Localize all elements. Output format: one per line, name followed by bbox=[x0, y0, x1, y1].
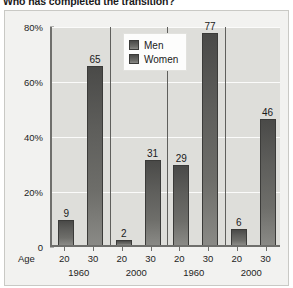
x-axis-age-label: 20 bbox=[52, 253, 76, 264]
x-axis-tick-mark bbox=[237, 247, 238, 251]
gridline bbox=[52, 27, 280, 28]
x-axis-tick-mark bbox=[179, 247, 180, 251]
bar-value-label: 9 bbox=[51, 208, 81, 219]
group-separator bbox=[225, 27, 226, 245]
x-axis-year-label: 1960 bbox=[169, 267, 219, 278]
bar bbox=[87, 66, 103, 245]
x-axis-tick-mark bbox=[64, 247, 65, 251]
x-axis-tick-mark bbox=[122, 247, 123, 251]
legend-item-men[interactable]: Men bbox=[129, 38, 178, 52]
bar bbox=[58, 220, 74, 245]
bar bbox=[145, 160, 161, 245]
bar bbox=[260, 119, 276, 246]
bar-value-label: 77 bbox=[195, 21, 225, 32]
x-axis-year-label: 1960 bbox=[54, 267, 104, 278]
x-axis-age-label: 20 bbox=[225, 253, 249, 264]
bar-value-label: 31 bbox=[138, 148, 168, 159]
x-axis-tick-mark bbox=[208, 247, 209, 251]
bar-value-label: 6 bbox=[224, 217, 254, 228]
legend-label-men: Men bbox=[144, 40, 163, 51]
x-axis-age-label: 30 bbox=[139, 253, 163, 264]
x-axis-tick-mark bbox=[93, 247, 94, 251]
x-axis-year-label: 2000 bbox=[226, 267, 276, 278]
x-axis-age-label: 30 bbox=[81, 253, 105, 264]
y-axis-tick-label: 0 bbox=[3, 242, 43, 253]
legend-swatch-men-icon bbox=[129, 40, 139, 50]
x-axis-age-label: 30 bbox=[196, 253, 220, 264]
bar-value-label: 46 bbox=[253, 107, 283, 118]
bar bbox=[116, 240, 132, 246]
bar-value-label: 29 bbox=[166, 153, 196, 164]
x-axis-age-label: 20 bbox=[167, 253, 191, 264]
bar bbox=[202, 33, 218, 245]
x-axis-tick-mark bbox=[266, 247, 267, 251]
bar bbox=[231, 229, 247, 246]
y-axis-tick-label: 60% bbox=[3, 77, 43, 88]
y-axis-tick-label: 40% bbox=[3, 132, 43, 143]
legend-item-women[interactable]: Women bbox=[129, 52, 178, 66]
bar-value-label: 2 bbox=[109, 228, 139, 239]
chart-figure: 020%40%60%80% 9652312977646 Men Women 20… bbox=[4, 10, 289, 286]
legend-swatch-women-icon bbox=[129, 54, 139, 64]
y-axis-tick-label: 20% bbox=[3, 187, 43, 198]
bar bbox=[173, 165, 189, 245]
x-axis-year-label: 2000 bbox=[111, 267, 161, 278]
chart-legend: Men Women bbox=[123, 33, 187, 71]
x-axis-age-label: 30 bbox=[254, 253, 278, 264]
legend-label-women: Women bbox=[144, 54, 178, 65]
x-axis-age-label: 20 bbox=[110, 253, 134, 264]
y-axis-tick-label: 80% bbox=[3, 22, 43, 33]
x-axis-tick-mark bbox=[151, 247, 152, 251]
x-axis-title: Age bbox=[18, 253, 35, 264]
bar-value-label: 65 bbox=[80, 54, 110, 65]
page-title: Who has completed the transition? bbox=[3, 0, 289, 7]
